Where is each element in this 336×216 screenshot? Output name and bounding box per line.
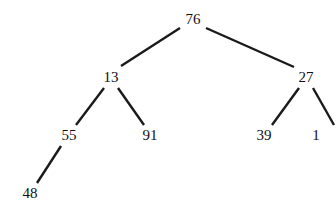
tree-edge-n27-n39 <box>272 88 299 125</box>
tree-edges <box>37 28 334 183</box>
tree-edge-n55-n48 <box>37 146 61 183</box>
tree-node-27: 27 <box>299 69 315 85</box>
tree-node-48: 48 <box>23 185 38 201</box>
tree-edge-n27-n1 <box>313 88 334 125</box>
tree-edge-n76-n27 <box>206 28 294 67</box>
tree-edge-n13-n91 <box>118 88 144 125</box>
tree-node-55: 55 <box>62 127 77 143</box>
tree-edge-n76-n13 <box>121 28 180 66</box>
tree-edge-n13-n55 <box>76 88 104 125</box>
tree-nodes: 76 13 27 55 91 39 1 48 <box>23 11 320 201</box>
tree-node-76: 76 <box>186 11 202 27</box>
tree-node-1: 1 <box>312 127 320 143</box>
tree-node-91: 91 <box>143 127 158 143</box>
binary-tree-diagram: 76 13 27 55 91 39 1 48 <box>0 0 336 216</box>
tree-node-39: 39 <box>257 127 272 143</box>
tree-node-13: 13 <box>104 69 119 85</box>
